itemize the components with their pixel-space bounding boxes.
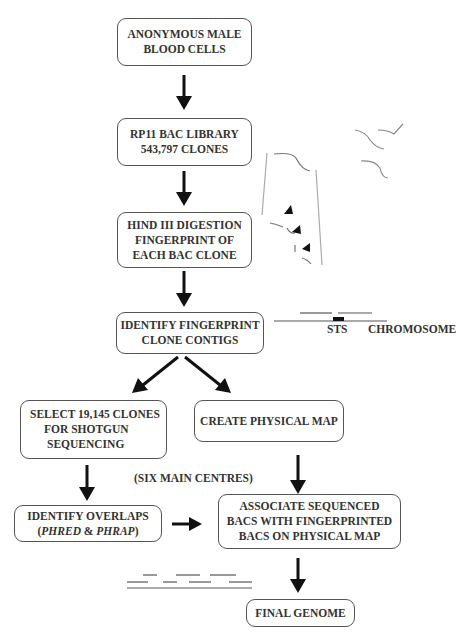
node-line: IDENTIFY FINGERPRINT	[120, 318, 259, 333]
paren-close: )	[135, 525, 139, 537]
node-create-physical-map: CREATE PHYSICAL MAP	[194, 400, 344, 442]
node-line: SELECT 19,145 CLONES	[30, 407, 160, 422]
arrow-n5-n7	[79, 465, 95, 501]
node-line: FOR SHOTGUN	[30, 422, 129, 437]
node-line: EACH BAC CLONE	[132, 248, 236, 263]
node-identify-fingerprint-contigs: IDENTIFY FINGERPRINT CLONE CONTIGS	[116, 312, 264, 354]
node-line: 543,797 CLONES	[141, 142, 229, 157]
arrow-n4-n5	[132, 357, 178, 393]
node-anonymous-male-blood-cells: ANONYMOUS MALE BLOOD CELLS	[117, 18, 252, 66]
node-rp11-bac-library: RP11 BAC LIBRARY 543,797 CLONES	[117, 118, 252, 166]
node-line: ANONYMOUS MALE	[127, 27, 241, 42]
node-select-clones: SELECT 19,145 CLONES FOR SHOTGUN SEQUENC…	[20, 400, 167, 459]
node-line: BLOOD CELLS	[143, 42, 225, 57]
arrow-n1-n2	[176, 75, 192, 110]
gel-illustration	[262, 153, 322, 265]
arrow-n7-n8	[172, 517, 202, 531]
node-line: FINGERPRINT OF	[135, 233, 234, 248]
node-line: RP11 BAC LIBRARY	[130, 127, 239, 142]
chromosome-label: CHROMOSOME	[368, 323, 456, 335]
node-line: CREATE PHYSICAL MAP	[200, 414, 338, 429]
node-line: (PHRED & PHRAP)	[38, 524, 139, 539]
ampersand: &	[81, 525, 96, 537]
six-main-centres-label: (SIX MAIN CENTRES)	[134, 472, 253, 484]
node-line: ASSOCIATE SEQUENCED	[239, 499, 379, 514]
arrow-n6-n8	[290, 455, 306, 494]
phrap-term: PHRAP	[96, 525, 134, 537]
arrow-n2-n3	[176, 171, 192, 206]
phred-term: PHRED	[41, 525, 81, 537]
chromosome-illustration	[274, 313, 387, 321]
arrow-n3-n4	[176, 271, 192, 307]
arrow-n4-n6	[185, 357, 231, 393]
node-line: BACS WITH FINGERPRINTED	[227, 514, 392, 529]
node-final-genome: FINAL GENOME	[246, 599, 355, 627]
node-associate-sequenced-bacs: ASSOCIATE SEQUENCED BACS WITH FINGERPRIN…	[218, 494, 401, 549]
node-line: IDENTIFY OVERLAPS	[27, 509, 148, 524]
node-hind-iii-digestion: HIND III DIGESTION FINGERPRINT OF EACH B…	[117, 212, 252, 268]
node-line: HIND III DIGESTION	[127, 218, 241, 233]
node-line: SEQUENCING	[30, 437, 124, 452]
node-line: FINAL GENOME	[255, 606, 345, 621]
node-line: BACS ON PHYSICAL MAP	[239, 529, 381, 544]
sts-marker	[333, 317, 344, 321]
overlapping-reads-illustration	[127, 575, 252, 588]
arrow-n8-n9	[290, 558, 306, 593]
node-identify-overlaps: IDENTIFY OVERLAPS (PHRED & PHRAP)	[14, 505, 162, 542]
node-line: CLONE CONTIGS	[142, 333, 239, 348]
sts-label: STS	[327, 323, 347, 335]
fragment-strokes	[355, 124, 403, 178]
